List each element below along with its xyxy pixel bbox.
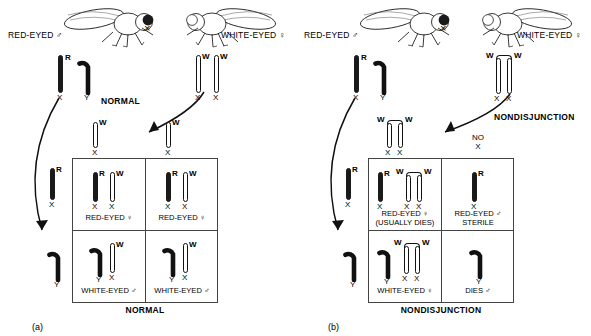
offspring-label-a-1: RED-EYED ♀ <box>73 213 145 223</box>
gamete-base-a-2: X <box>165 148 170 157</box>
no-x-gamete-b: NO X <box>460 133 496 151</box>
offspring-sublabel-b-1: (USUALLY DIES) <box>369 218 441 228</box>
offspring-label-a-4: WHITE-EYED ♂ <box>146 286 218 296</box>
caption-b: (b) <box>328 322 339 332</box>
gamete-allele-b-1b: W <box>405 115 413 124</box>
sperm-allele-b-1: R <box>352 165 358 174</box>
gamete-allele-b-1a: W <box>377 115 385 124</box>
offspring-label-a-2: RED-EYED ♀ <box>146 213 218 223</box>
sperm-base-b-1: X <box>345 200 350 209</box>
allele-R-b: R <box>361 53 367 62</box>
gamete-allele-a-1: W <box>99 118 107 127</box>
sperm-base-b-2: Y <box>350 280 355 289</box>
offspring-label-b-3: WHITE-EYED ♀ <box>369 286 441 296</box>
cross-symbol-a: × <box>144 22 150 34</box>
sperm-allele-a-1: R <box>56 165 62 174</box>
bottom-label-a: NORMAL <box>72 305 218 315</box>
caption-a: (a) <box>32 322 43 332</box>
punnett-divider-horizontal-a <box>72 230 218 231</box>
allele-R-a: R <box>65 53 71 62</box>
allele-W1-b: W <box>486 51 494 60</box>
panel-nondisjunction: RED-EYED ♂ × WHITE-EYED ♀ R X Y W W X <box>296 0 591 336</box>
mother-fly-label-a: WHITE-EYED ♀ <box>221 30 286 40</box>
mother-fly-illustration-b <box>470 2 580 52</box>
gamete-allele-a-2: W <box>172 118 180 127</box>
sperm-base-a-2: Y <box>54 280 59 289</box>
mother-fly-illustration-a <box>174 2 284 52</box>
process-label-b: NONDISJUNCTION <box>494 112 575 122</box>
panel-normal: RED-EYED ♂ × WHITE-EYED ♀ R X Y W X <box>0 0 295 336</box>
allele-W1-a: W <box>202 52 210 61</box>
no-x-line2: X <box>460 142 496 151</box>
offspring-label-a-3: WHITE-EYED ♂ <box>73 286 145 296</box>
mother-fly-label-b: WHITE-EYED ♀ <box>517 30 582 40</box>
offspring-sublabel-b-2: STERILE <box>442 218 514 228</box>
sperm-base-a-1: X <box>49 200 54 209</box>
cross-symbol-b: × <box>440 22 446 34</box>
father-fly-label-a: RED-EYED ♂ <box>8 30 63 40</box>
allele-W2-b: W <box>514 51 522 60</box>
bottom-label-b: NONDISJUNCTION <box>368 305 514 315</box>
gamete-base-b-1a: X <box>385 148 390 157</box>
offspring-label-b-4: DIES ♂ <box>442 286 514 296</box>
process-label-a: NORMAL <box>101 96 140 106</box>
gamete-base-b-1b: X <box>397 148 402 157</box>
allele-W2-a: W <box>220 52 228 61</box>
punnett-divider-horizontal-b <box>368 230 514 231</box>
gamete-base-a-1: X <box>92 148 97 157</box>
father-fly-label-b: RED-EYED ♂ <box>304 30 359 40</box>
no-x-line1: NO <box>460 133 496 142</box>
